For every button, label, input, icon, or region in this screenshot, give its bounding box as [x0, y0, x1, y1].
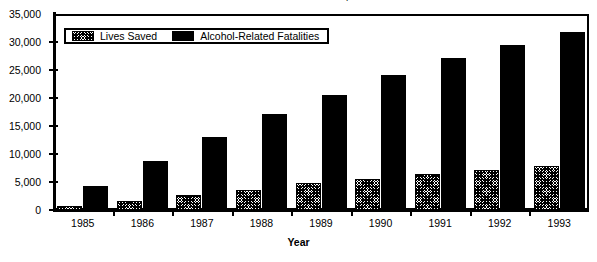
bar-lives-saved-1992: [474, 170, 499, 210]
legend-item-lives-saved: Lives Saved: [72, 31, 157, 41]
y-axis-tick-label: 10,000: [9, 149, 41, 159]
bar-lives-saved-1993: [534, 166, 559, 210]
bar-alcohol-related-fatalities-1985: [83, 186, 108, 210]
x-axis-tick-mark: [351, 209, 353, 216]
legend-label-alcohol-related-fatalities: Alcohol-Related Fatalities: [200, 31, 319, 41]
bar-lives-saved-1991: [415, 174, 440, 210]
x-axis-tick-mark: [232, 209, 234, 216]
bar-alcohol-related-fatalities-1988: [262, 114, 287, 210]
bar-lives-saved-1990: [355, 179, 380, 210]
bar-alcohol-related-fatalities-1990: [381, 75, 406, 210]
x-axis-tick-label: 1990: [369, 218, 392, 229]
y-axis-tick-label: 30,000: [9, 37, 41, 47]
x-axis-tick-label: 1989: [309, 218, 332, 229]
y-axis-tick-mark: [49, 41, 58, 43]
bar-lives-saved-1988: [236, 190, 261, 210]
bar-alcohol-related-fatalities-1987: [202, 137, 227, 210]
bar-alcohol-related-fatalities-1986: [143, 161, 168, 210]
y-axis-tick-label: 15,000: [9, 121, 41, 131]
bar-alcohol-related-fatalities-1993: [560, 32, 585, 210]
x-axis-tick-mark: [291, 209, 293, 216]
chart-container: Lives Saved and Alcohol Fatalities, Base…: [0, 0, 597, 262]
x-axis-tick-label: 1985: [71, 218, 94, 229]
x-axis-tick-label: 1991: [428, 218, 451, 229]
x-axis-tick-mark: [470, 209, 472, 216]
x-axis-tick-mark: [113, 209, 115, 216]
bar-lives-saved-1989: [296, 183, 321, 210]
chart-legend: Lives Saved Alcohol-Related Fatalities: [64, 28, 329, 44]
legend-swatch-hatch-icon: [72, 31, 94, 41]
y-axis-tick-label: 5,000: [15, 177, 41, 187]
x-axis-tick-mark: [529, 209, 531, 216]
y-axis-tick-label: 25,000: [9, 65, 41, 75]
legend-item-alcohol-related-fatalities: Alcohol-Related Fatalities: [172, 31, 319, 41]
y-axis-tick-mark: [49, 69, 58, 71]
x-axis-tick-label: 1988: [250, 218, 273, 229]
chart-title: Lives Saved and Alcohol Fatalities, Base…: [0, 0, 597, 1]
bar-lives-saved-1986: [117, 201, 142, 210]
y-axis-tick-mark: [49, 153, 58, 155]
y-axis-tick-mark: [49, 209, 58, 211]
bar-lives-saved-1987: [176, 195, 201, 210]
y-axis-tick-mark: [49, 125, 58, 127]
bar-alcohol-related-fatalities-1992: [500, 45, 525, 210]
x-axis-tick-label: 1993: [548, 218, 571, 229]
y-axis-tick-label: 35,000: [9, 9, 41, 19]
y-axis-tick-labels: 05,00010,00015,00020,00025,00030,00035,0…: [0, 0, 47, 262]
x-axis-tick-mark: [172, 209, 174, 216]
y-axis-tick-mark: [49, 97, 58, 99]
y-axis-tick-label: 0: [35, 205, 41, 215]
bar-lives-saved-1985: [57, 206, 82, 210]
bar-alcohol-related-fatalities-1991: [441, 58, 466, 210]
legend-label-lives-saved: Lives Saved: [100, 31, 157, 41]
x-axis-title: Year: [0, 236, 597, 248]
x-axis-tick-label: 1987: [190, 218, 213, 229]
y-axis-tick-label: 20,000: [9, 93, 41, 103]
x-axis-tick-label: 1986: [131, 218, 154, 229]
x-axis-tick-mark: [410, 209, 412, 216]
legend-swatch-solid-icon: [172, 31, 194, 41]
bar-alcohol-related-fatalities-1989: [322, 95, 347, 210]
y-axis-tick-mark: [49, 181, 58, 183]
x-axis-tick-label: 1992: [488, 218, 511, 229]
